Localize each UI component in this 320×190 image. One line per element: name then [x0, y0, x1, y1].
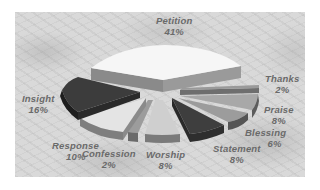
label-insight: Insight 16%: [22, 93, 55, 115]
label-statement: Statement 8%: [213, 143, 261, 165]
label-response: Response 10%: [52, 140, 99, 162]
label-worship: Worship 8%: [146, 149, 185, 171]
label-thanks: Thanks 2%: [265, 73, 299, 95]
label-praise: Praise 8%: [264, 104, 294, 126]
slice-petition: [91, 45, 241, 92]
label-petition: Petition 41%: [156, 15, 192, 37]
